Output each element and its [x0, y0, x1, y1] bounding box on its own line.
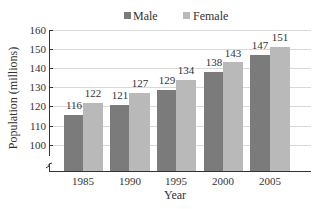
bar-female-2000 [223, 62, 243, 171]
value-label-female-2000: 143 [218, 48, 248, 59]
x-tick-label: 1990 [110, 176, 150, 187]
value-label-female-2005: 151 [265, 32, 295, 43]
value-label-female-1985: 122 [78, 88, 108, 99]
x-tick-label: 2005 [250, 176, 290, 187]
tick-120 [49, 106, 53, 107]
tick-130 [49, 87, 53, 88]
x-tick-label: 2000 [203, 176, 243, 187]
tick-150 [49, 49, 53, 50]
y-tick-label: 110 [20, 121, 46, 132]
bar-female-1985 [83, 103, 103, 171]
bar-male-1990 [110, 105, 129, 171]
legend-swatch-male [124, 12, 131, 19]
bar-female-1995 [176, 80, 196, 171]
value-label-male-1995: 129 [152, 75, 182, 86]
legend-swatch-female [183, 12, 190, 19]
x-axis-title: Year [155, 189, 195, 201]
bar-male-2000 [204, 72, 223, 171]
value-label-female-1995: 134 [171, 65, 201, 76]
y-tick-label: 150 [20, 44, 46, 55]
y-tick-label: 160 [20, 25, 46, 36]
tick-110 [49, 126, 53, 127]
y-axis-line [49, 30, 50, 171]
bar-male-1985 [64, 115, 83, 171]
x-tick-label: 1995 [156, 176, 196, 187]
x-axis-line [49, 171, 311, 172]
bar-male-1995 [157, 90, 176, 171]
value-label-male-1985: 116 [59, 100, 89, 111]
tick-140 [49, 68, 53, 69]
bar-female-1990 [129, 93, 150, 171]
bar-female-2005 [270, 47, 290, 171]
y-tick-label: 100 [20, 140, 46, 151]
y-tick-label: 120 [20, 101, 46, 112]
axis-break-icon [45, 156, 53, 164]
y-tick-label: 130 [20, 82, 46, 93]
y-tick-label: 140 [20, 63, 46, 74]
value-label-male-1990: 121 [105, 90, 135, 101]
value-label-female-1990: 127 [125, 78, 155, 89]
bar-male-2005 [250, 55, 270, 171]
x-tick-label: 1985 [63, 176, 103, 187]
tick-100 [49, 145, 53, 146]
tick-160 [49, 30, 53, 31]
legend-label-male: Male [133, 10, 158, 22]
y-axis-title: Population (millions) [7, 38, 19, 158]
legend-label-female: Female [193, 10, 228, 22]
